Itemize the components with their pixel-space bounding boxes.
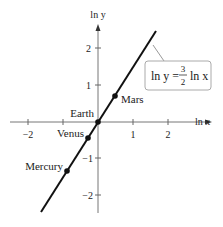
label-earth: Earth — [70, 107, 94, 119]
equation-numerator: 3 — [181, 64, 186, 74]
point-mars — [112, 93, 118, 99]
equation-rhs: ln x — [190, 69, 208, 83]
y-tick-label: −1 — [82, 153, 93, 164]
y-tick-label: 2 — [86, 43, 91, 54]
x-tick-label: −2 — [23, 129, 34, 140]
label-mercury: Mercury — [25, 160, 63, 172]
equation-lhs: ln y = — [151, 69, 179, 83]
x-tick-label: 1 — [131, 129, 136, 140]
label-venus: Venus — [57, 127, 84, 139]
equation-callout: ln y = 3 2 ln x — [145, 45, 211, 90]
point-mercury — [64, 168, 70, 174]
chart: −2 1 2 2 1 −1 −2 ln y ln x Mercury Venus… — [0, 0, 223, 227]
x-axis-label: ln x — [195, 116, 210, 127]
equation-denominator: 2 — [181, 77, 186, 87]
point-venus — [85, 135, 91, 141]
y-tick-label: 1 — [86, 80, 91, 91]
y-axis-label: ln y — [90, 9, 105, 20]
y-axis-arrow-icon — [96, 24, 101, 31]
point-earth — [95, 119, 101, 125]
x-axis — [10, 119, 212, 125]
y-tick-label: −2 — [82, 190, 93, 201]
x-tick-label: 2 — [166, 129, 171, 140]
label-mars: Mars — [121, 93, 144, 105]
